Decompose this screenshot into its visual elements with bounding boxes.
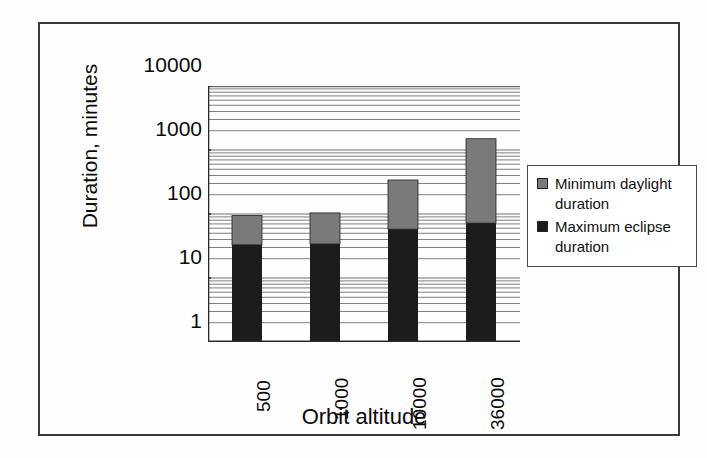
y-tick-label-10000: 10000 xyxy=(144,54,202,75)
bar-segment-maximum-eclipse xyxy=(310,244,340,342)
legend-swatch-icon xyxy=(537,178,548,189)
bar-segment-maximum-eclipse xyxy=(232,245,262,342)
bar-segment-maximum-eclipse xyxy=(466,223,496,342)
bar-segment-maximum-eclipse xyxy=(388,229,418,342)
bar-segment-minimum-daylight xyxy=(466,139,496,223)
bar-segment-minimum-daylight xyxy=(388,180,418,229)
legend-item-minimum-daylight: Minimum daylight duration xyxy=(537,174,687,214)
legend-item-maximum-eclipse: Maximum eclipse duration xyxy=(537,217,687,257)
bar-segment-minimum-daylight xyxy=(310,213,340,244)
plot-area xyxy=(208,86,520,342)
y-axis-title: Duration, minutes xyxy=(78,36,102,256)
y-tick-label-1000: 1000 xyxy=(155,118,202,139)
y-axis: 10000 1000 100 10 1 xyxy=(98,24,202,458)
chart-legend: Minimum daylight duration Maximum eclips… xyxy=(527,165,697,267)
y-tick-label-100: 100 xyxy=(167,182,202,203)
y-tick-label-1: 1 xyxy=(190,310,202,331)
legend-swatch-icon xyxy=(537,221,548,232)
legend-label: Minimum daylight duration xyxy=(555,174,687,214)
x-axis-title: Orbit altitude xyxy=(208,404,520,430)
y-tick-label-10: 10 xyxy=(179,246,202,267)
figure-frame: 10000 1000 100 10 1 Duration, minutes 50… xyxy=(38,22,680,436)
bar-segment-minimum-daylight xyxy=(232,215,262,244)
chart-canvas xyxy=(208,86,520,342)
legend-label: Maximum eclipse duration xyxy=(555,217,687,257)
